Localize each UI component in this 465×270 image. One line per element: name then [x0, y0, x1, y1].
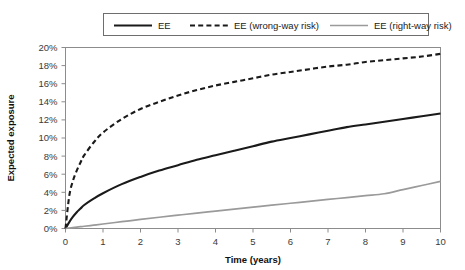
- y-tick-label: 4%: [44, 187, 58, 198]
- y-tick-label: 20%: [38, 42, 58, 53]
- series-line-ee: [66, 114, 441, 229]
- x-tick-label: 10: [435, 236, 446, 247]
- x-axis-ticks: 012345678910: [63, 229, 446, 247]
- chart-canvas: EEEE (wrong-way risk)EE (right-way risk)…: [0, 0, 465, 270]
- x-tick-label: 0: [63, 236, 68, 247]
- y-tick-label: 0%: [44, 223, 58, 234]
- x-tick-label: 1: [100, 236, 105, 247]
- y-tick-label: 12%: [38, 114, 58, 125]
- y-axis-ticks: 0%2%4%6%8%10%12%14%16%18%20%: [38, 42, 65, 234]
- x-tick-label: 9: [400, 236, 405, 247]
- legend-label: EE: [158, 20, 171, 31]
- x-tick-label: 7: [325, 236, 330, 247]
- x-axis-title: Time (years): [225, 254, 281, 265]
- y-tick-label: 8%: [44, 151, 58, 162]
- x-tick-label: 3: [175, 236, 180, 247]
- x-tick-label: 2: [138, 236, 143, 247]
- series-group: [66, 54, 441, 229]
- y-tick-label: 2%: [44, 205, 58, 216]
- series-line-ee-wrong-way-risk: [66, 54, 441, 229]
- x-tick-label: 6: [288, 236, 293, 247]
- series-line-ee-right-way-risk: [66, 181, 441, 228]
- plot-frame: [66, 48, 441, 229]
- x-tick-label: 4: [213, 236, 218, 247]
- legend-label: EE (wrong-way risk): [234, 20, 319, 31]
- y-tick-label: 6%: [44, 169, 58, 180]
- chart-legend: EEEE (wrong-way risk)EE (right-way risk): [104, 14, 452, 36]
- x-tick-label: 5: [250, 236, 255, 247]
- y-tick-label: 18%: [38, 60, 58, 71]
- y-tick-label: 10%: [38, 132, 58, 143]
- x-tick-label: 8: [363, 236, 368, 247]
- legend-label: EE (right-way risk): [374, 20, 452, 31]
- y-tick-label: 16%: [38, 78, 58, 89]
- y-axis-title: Expected exposure: [5, 94, 16, 181]
- y-tick-label: 14%: [38, 96, 58, 107]
- expected-exposure-chart: EEEE (wrong-way risk)EE (right-way risk)…: [0, 0, 465, 270]
